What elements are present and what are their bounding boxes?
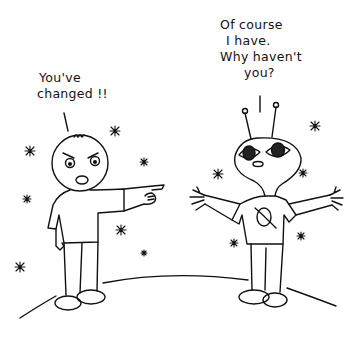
angry-human: [48, 135, 164, 310]
left-speech-pointer: [64, 113, 68, 131]
comic-drawing: [0, 0, 363, 338]
comic-panel: You've changed !! Of course I have. Why …: [0, 0, 363, 338]
planet-surface: [20, 276, 336, 318]
